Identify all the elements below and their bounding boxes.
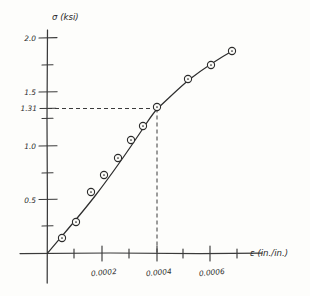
data-point: [87, 188, 94, 195]
y-tick-label-1.0: 1.0: [24, 142, 36, 151]
x-axis-title: ε (in./in.): [250, 248, 288, 258]
x-tick-label-0.0006: 0.0006: [198, 267, 225, 279]
data-point: [184, 75, 191, 82]
data-points: [58, 47, 235, 241]
x-axis-line: [20, 253, 262, 254]
x-tick-label-0.0004: 0.0004: [145, 267, 172, 279]
x-tick-label-0.0002: 0.0002: [90, 267, 117, 279]
y-tick-label-0.5: 0.5: [24, 196, 36, 205]
data-point: [139, 122, 146, 129]
y-tick-label-2.0: 2.0: [24, 34, 36, 43]
y-axis-line: [47, 30, 48, 283]
y-tick-label-1.5: 1.5: [24, 88, 36, 97]
data-point: [100, 171, 107, 178]
data-point: [114, 154, 121, 161]
x-axis: [20, 246, 262, 261]
data-point: [207, 61, 214, 68]
data-point: [228, 47, 235, 54]
y-axis-title: σ (ksi): [52, 12, 79, 22]
data-point: [72, 218, 79, 225]
data-point: [58, 234, 65, 241]
chart-canvas: σ (ksi) ε (in./in.) 2.0 1.5 1.31 1.0 0.5…: [0, 0, 310, 296]
y-tick-label-1.31: 1.31: [21, 104, 37, 113]
data-point: [127, 136, 134, 143]
proportional-limit-guides: [48, 109, 157, 254]
data-point: [153, 103, 160, 110]
stress-strain-chart: σ (ksi) ε (in./in.) 2.0 1.5 1.31 1.0 0.5…: [0, 0, 310, 296]
